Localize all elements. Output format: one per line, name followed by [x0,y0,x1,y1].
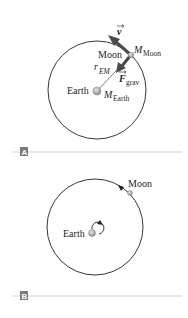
moon-mass-label: M Moon [133,44,161,58]
earth-mass-label: M Earth [103,89,129,103]
gravity-force-label: F grav [118,71,140,88]
svg-text:grav: grav [126,78,140,87]
svg-text:Earth: Earth [113,94,129,103]
earth-label-a: Earth [67,85,89,96]
velocity-label: v [117,25,124,38]
panel-b: Moon Earth B [12,178,182,301]
moon-body-a [128,52,134,58]
svg-text:F: F [118,73,126,84]
earth-moon-diagram: v Moon M Moon r EM F grav Earth M Earth … [0,0,188,318]
moon-body-b [128,191,133,196]
orbit-direction-arrow [118,185,124,191]
panel-tag-a: A [22,148,28,157]
panel-tag-b: B [22,292,28,301]
panel-a: v Moon M Moon r EM F grav Earth M Earth … [12,25,182,157]
earth-body-a [93,87,101,95]
radius-label: r EM [94,61,111,76]
svg-text:Moon: Moon [143,49,161,58]
moon-label-b: Moon [128,178,152,189]
moon-label-a: Moon [98,49,122,60]
svg-text:r: r [94,61,98,72]
svg-text:M: M [103,89,113,100]
earth-label-b: Earth [63,228,85,239]
svg-text:v: v [117,26,122,37]
svg-text:EM: EM [98,67,111,76]
earth-body-b [89,230,96,237]
svg-text:M: M [133,44,143,55]
